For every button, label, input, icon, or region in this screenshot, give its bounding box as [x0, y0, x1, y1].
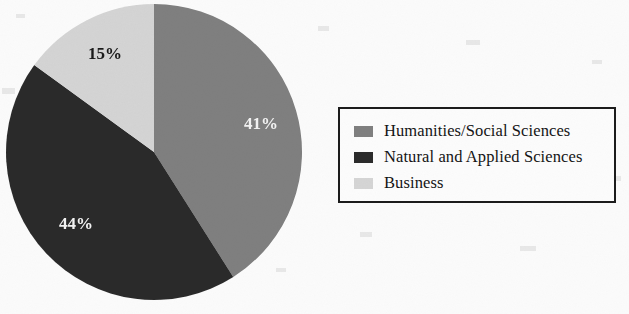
legend-label: Business [384, 173, 443, 193]
pie-graphic: 41% 44% 15% [6, 1, 306, 303]
scan-speck [360, 232, 372, 237]
legend-swatch-icon [354, 126, 373, 137]
pie-grain-overlay [6, 4, 302, 300]
pie-chart-figure: 41% 44% 15% Humanities/Social Sciences N… [0, 0, 629, 314]
scan-speck [592, 60, 602, 64]
scan-speck [466, 40, 480, 45]
scan-speck [520, 246, 536, 251]
legend-item-humanities-social-sciences: Humanities/Social Sciences [354, 118, 614, 144]
pie-label-humanities-social-sciences: 41% [244, 114, 278, 133]
pie-svg: 41% 44% 15% [6, 1, 306, 303]
scan-speck [318, 26, 329, 31]
legend-label: Humanities/Social Sciences [384, 121, 570, 141]
pie-label-business: 15% [88, 44, 122, 63]
legend-swatch-icon [354, 152, 373, 163]
legend-swatch-icon [354, 178, 373, 189]
pie-label-natural-and-applied-sciences: 44% [59, 214, 93, 233]
chart-legend: Humanities/Social Sciences Natural and A… [338, 107, 616, 203]
legend-item-natural-and-applied-sciences: Natural and Applied Sciences [354, 144, 614, 170]
legend-label: Natural and Applied Sciences [384, 147, 582, 167]
legend-item-business: Business [354, 170, 614, 196]
